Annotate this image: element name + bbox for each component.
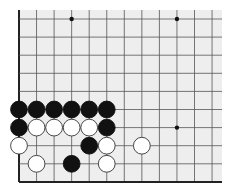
black-stone[interactable] [11, 119, 28, 136]
white-stone[interactable] [28, 155, 45, 172]
black-stone[interactable] [81, 101, 98, 118]
black-stone[interactable] [63, 155, 80, 172]
white-stone[interactable] [63, 119, 80, 136]
black-stone[interactable] [81, 137, 98, 154]
black-stone[interactable] [28, 101, 45, 118]
white-stone[interactable] [133, 137, 150, 154]
white-stone[interactable] [81, 119, 98, 136]
white-stone[interactable] [98, 155, 115, 172]
star-point [175, 17, 179, 21]
white-stone[interactable] [98, 137, 115, 154]
black-stone[interactable] [63, 101, 80, 118]
board-background [19, 10, 222, 182]
black-stone[interactable] [98, 101, 115, 118]
black-stone[interactable] [46, 101, 63, 118]
black-stone[interactable] [98, 119, 115, 136]
black-stone[interactable] [11, 101, 28, 118]
star-point [69, 17, 73, 21]
white-stone[interactable] [46, 119, 63, 136]
white-stone[interactable] [28, 119, 45, 136]
star-point [175, 125, 179, 129]
go-board[interactable] [0, 0, 232, 190]
white-stone[interactable] [11, 137, 28, 154]
